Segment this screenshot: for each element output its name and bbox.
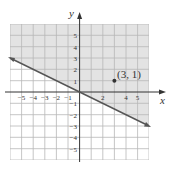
svg-text:5: 5 [74,32,78,40]
svg-text:1: 1 [74,78,78,86]
x-axis-label: x [159,94,165,106]
y-axis-arrow-icon [77,12,82,19]
point-label: (3, 1) [117,68,141,81]
svg-text:−3: −3 [41,94,49,102]
svg-text:−3: −3 [70,123,78,131]
svg-text:−4: −4 [29,94,37,102]
svg-text:−1: −1 [70,100,78,108]
svg-text:−5: −5 [70,146,78,154]
svg-text:4: 4 [124,94,128,102]
svg-text:−2: −2 [53,94,61,102]
svg-text:−5: −5 [18,94,26,102]
svg-text:−4: −4 [70,134,78,142]
y-axis-label: y [68,7,74,19]
svg-text:4: 4 [74,44,78,52]
svg-text:2: 2 [101,94,105,102]
svg-text:2: 2 [74,66,78,74]
inequality-graph: x y −5−4 −3−2 −12 45 54 32 1−1 −2−3 −4−5… [0,0,174,169]
svg-text:−2: −2 [70,112,78,120]
point-3-1 [112,79,116,83]
svg-text:3: 3 [74,55,78,63]
svg-text:5: 5 [136,94,140,102]
